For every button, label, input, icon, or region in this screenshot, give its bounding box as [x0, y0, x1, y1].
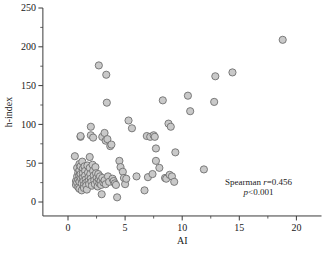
stat-annotation: Spearman r=0.456 p<0.001	[196, 177, 321, 197]
data-point	[279, 36, 286, 43]
data-point	[187, 108, 194, 115]
data-point	[229, 69, 236, 76]
data-point	[114, 194, 121, 201]
data-point	[98, 191, 105, 198]
data-point	[112, 181, 119, 188]
data-point	[200, 166, 207, 173]
data-point	[171, 178, 178, 185]
y-tick-label: 50	[26, 158, 36, 169]
p-value-text: <0.001	[248, 187, 273, 197]
spearman-r-annotation: Spearman r=0.456	[196, 177, 321, 187]
data-point	[152, 145, 159, 152]
y-tick-label: 0	[31, 196, 36, 207]
x-tick-label: 10	[177, 222, 187, 233]
x-tick-label: 0	[66, 222, 71, 233]
data-point	[77, 132, 84, 139]
y-tick-label: 200	[21, 41, 36, 52]
y-tick-label: 150	[21, 80, 36, 91]
data-point	[125, 117, 132, 124]
scatter-plot-figure: 05010015020025005101520AIh-index Spearma…	[0, 0, 327, 263]
data-point	[184, 92, 191, 99]
y-tick-label: 100	[21, 119, 36, 130]
data-point	[159, 97, 166, 104]
data-point	[151, 133, 158, 140]
data-point	[172, 149, 179, 156]
data-point	[212, 73, 219, 80]
data-point	[211, 98, 218, 105]
data-point	[108, 141, 115, 148]
x-tick-label: 5	[123, 222, 128, 233]
data-point	[95, 62, 102, 69]
data-point	[90, 134, 97, 141]
data-point	[128, 125, 135, 132]
data-point	[167, 123, 174, 130]
data-point	[149, 170, 156, 177]
data-point	[156, 164, 163, 171]
p-value-annotation: p<0.001	[196, 187, 321, 197]
x-tick-label: 20	[291, 222, 301, 233]
data-point	[86, 153, 93, 160]
data-point	[103, 99, 110, 106]
x-axis-title: AI	[177, 235, 188, 246]
data-point	[123, 175, 130, 182]
r-value: =0.456	[267, 177, 292, 187]
data-point	[87, 123, 94, 130]
data-point	[152, 157, 159, 164]
spearman-word: Spearman	[225, 177, 263, 187]
y-tick-label: 250	[21, 2, 36, 13]
data-point	[71, 153, 78, 160]
plot-canvas: 05010015020025005101520AIh-index	[0, 0, 327, 263]
data-point	[133, 173, 140, 180]
data-point	[103, 71, 110, 78]
x-tick-label: 15	[234, 222, 244, 233]
y-axis-title: h-index	[3, 97, 14, 128]
data-point	[141, 187, 148, 194]
